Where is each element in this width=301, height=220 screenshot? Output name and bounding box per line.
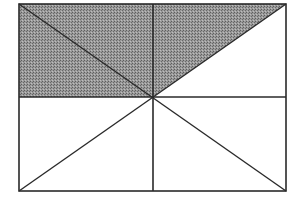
geometry-diagram <box>0 0 301 220</box>
